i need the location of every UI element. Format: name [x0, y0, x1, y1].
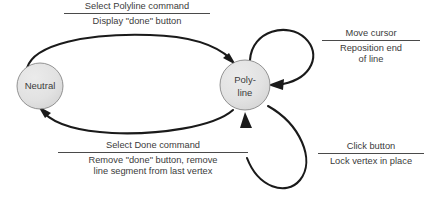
transition-label-move-cursor: Move cursor Reposition end of line	[322, 28, 420, 65]
state-node-polyline[interactable]	[220, 60, 270, 110]
state-label-polyline-line1: Poly-	[234, 74, 256, 85]
transition-trigger: Click button	[318, 141, 424, 153]
state-label-polyline-line2: line	[238, 87, 253, 98]
edge-start-polyline	[27, 35, 231, 68]
transition-label-start-polyline: Select Polyline command Display "done" b…	[64, 1, 210, 27]
transition-action: Lock vertex in place	[318, 155, 424, 167]
transition-label-click-button: Click button Lock vertex in place	[318, 141, 424, 167]
edge-click-button-arrowhead	[240, 112, 252, 128]
transition-trigger: Select Polyline command	[64, 1, 210, 13]
transition-action: Display "done" button	[64, 15, 210, 27]
transition-trigger: Move cursor	[322, 28, 420, 40]
transition-action: Reposition end of line	[322, 42, 420, 65]
transition-action-line: Remove "done" button, remove	[61, 155, 245, 166]
transition-action-line: Lock vertex in place	[321, 156, 421, 167]
transition-divider	[318, 153, 424, 154]
transition-trigger: Select Done command	[58, 140, 248, 152]
edge-move-cursor-arrowhead	[268, 79, 284, 90]
state-label-neutral: Neutral	[25, 80, 56, 91]
edge-click-button-loop	[247, 106, 306, 188]
state-diagram: Neutral Poly- line Select Polyline comma…	[0, 0, 425, 201]
transition-action-line: Reposition end	[325, 43, 417, 54]
transition-label-finish-polyline: Select Done command Remove "done" button…	[58, 140, 248, 177]
transition-divider	[322, 40, 420, 41]
transition-divider	[58, 152, 248, 153]
edge-finish-polyline	[44, 110, 233, 133]
transition-action: Remove "done" button, remove line segmen…	[58, 154, 248, 177]
transition-divider	[64, 13, 210, 14]
transition-action-line: line segment from last vertex	[61, 166, 245, 177]
transition-action-line: of line	[325, 54, 417, 65]
transition-action-line: Display "done" button	[67, 16, 207, 27]
